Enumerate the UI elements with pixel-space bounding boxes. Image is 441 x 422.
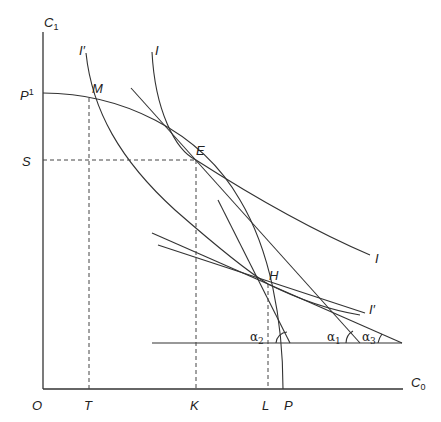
curve-i-top-label: I — [155, 43, 159, 58]
tangent-line-e — [131, 88, 360, 343]
k-label: K — [190, 398, 200, 413]
diagram-canvas: C1 C0 O P1 S T K L P M E H I′ I I I′ α2 … — [0, 0, 441, 422]
l-label: L — [262, 398, 269, 413]
x-axis-label: C0 — [411, 375, 425, 392]
point-m-label: M — [92, 81, 103, 96]
origin-label: O — [32, 398, 42, 413]
point-h-label: H — [269, 268, 279, 283]
indifference-curve-i — [152, 52, 370, 255]
alpha-1-label: α1 — [327, 330, 341, 346]
shallow-tangent-line-h — [152, 233, 402, 343]
steep-tangent-line-h — [218, 200, 290, 343]
point-e-label: E — [196, 143, 205, 158]
angle-arc-a1 — [346, 331, 353, 343]
t-label: T — [84, 398, 93, 413]
p-label: P — [284, 398, 293, 413]
production-frontier-curve — [43, 93, 283, 389]
alpha-3-label: α3 — [362, 330, 376, 346]
p1-label: P1 — [20, 87, 34, 103]
curve-i-right-label: I — [375, 251, 379, 266]
indifference-curve-i-prime — [86, 53, 360, 315]
s-label: S — [22, 154, 31, 169]
angle-arc-a3 — [378, 334, 382, 343]
curve-i-prime-right-label: I′ — [369, 302, 376, 317]
line-h-i-prime — [158, 245, 365, 313]
alpha-2-label: α2 — [250, 330, 264, 346]
y-axis-label: C1 — [44, 15, 58, 32]
curve-i-prime-top-label: I′ — [79, 43, 86, 58]
